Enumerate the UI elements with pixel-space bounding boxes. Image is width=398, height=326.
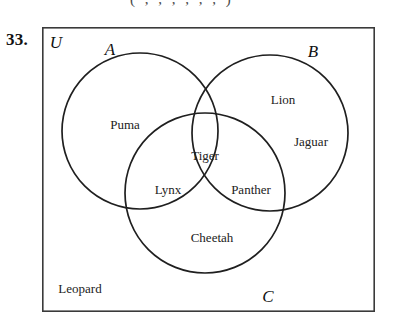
clipped-set-notation-text: ( , , , , , , ) [130,0,380,9]
figure-page: ( , , , , , , ) 33. U A B C Puma Lion Ja… [0,0,398,326]
problem-number: 33. [6,30,28,50]
venn-diagram: U A B C Puma Lion Jaguar Tiger Lynx Pant… [42,27,375,312]
venn-diagram-canvas [42,27,375,312]
